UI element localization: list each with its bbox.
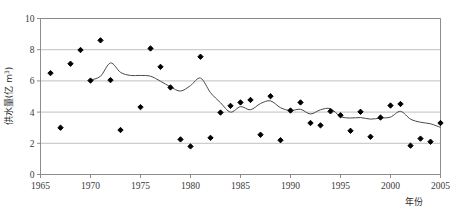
y-tick-label-2: 2 (30, 139, 35, 149)
y-axis-title-main: 供水量(亿 m (3, 74, 14, 125)
scatter-marker (278, 137, 283, 142)
x-tick-label-1965: 1965 (31, 181, 50, 191)
x-tick-label-1980: 1980 (181, 181, 200, 191)
scatter-marker (378, 115, 383, 120)
y-tick-label-4: 4 (30, 108, 35, 118)
x-tick-label-1995: 1995 (331, 181, 350, 191)
scatter-marker (308, 120, 313, 125)
scatter-marker (368, 134, 373, 139)
x-tick-label-2000: 2000 (381, 181, 400, 191)
scatter-marker (218, 110, 223, 115)
scatter-marker (158, 64, 163, 69)
y-axis-title-close: ) (4, 67, 14, 71)
y-tick-label-0: 0 (30, 170, 35, 180)
scatter-marker (418, 136, 423, 141)
cropped-text-remnant (0, 0, 464, 12)
y-tick-label-10: 10 (25, 14, 35, 24)
scatter-marker (108, 77, 113, 82)
x-axis-tick-group: 196519701975198019851990199520002005 (31, 175, 450, 191)
scatter-marker (238, 100, 243, 105)
scatter-marker (438, 120, 443, 125)
scatter-marker (348, 128, 353, 133)
svg-text:供水量(亿 m3): 供水量(亿 m3) (3, 67, 15, 125)
scatter-marker (398, 101, 403, 106)
scatter-marker (48, 70, 53, 75)
trendline-series (91, 63, 441, 127)
trendline-path (91, 63, 441, 127)
x-tick-label-1975: 1975 (131, 181, 150, 191)
scatter-marker (258, 132, 263, 137)
scatter-marker (68, 61, 73, 66)
y-axis-tick-group: 0246810 (25, 14, 41, 180)
y-tick-label-6: 6 (30, 76, 35, 86)
x-tick-label-1985: 1985 (231, 181, 250, 191)
x-axis-title: 年份 (405, 196, 423, 207)
scatter-marker (408, 143, 413, 148)
scatter-marker (188, 144, 193, 149)
scatter-marker (178, 137, 183, 142)
scatter-marker (98, 38, 103, 43)
scatter-marker (88, 78, 93, 83)
scatter-marker (138, 104, 143, 109)
scatter-series (48, 38, 443, 149)
scatter-marker (118, 127, 123, 132)
y-tick-label-8: 8 (30, 45, 35, 55)
scatter-marker (228, 103, 233, 108)
x-tick-label-1990: 1990 (281, 181, 300, 191)
supply-water-scatter-chart: 196519701975198019851990199520002005 024… (0, 0, 464, 212)
scatter-marker (198, 54, 203, 59)
scatter-marker (58, 125, 63, 130)
scatter-marker (298, 100, 303, 105)
scatter-marker (248, 97, 253, 102)
x-tick-label-1970: 1970 (81, 181, 100, 191)
scatter-marker (388, 103, 393, 108)
scatter-marker (78, 47, 83, 52)
scatter-marker (148, 46, 153, 51)
scatter-marker (208, 135, 213, 140)
scatter-marker (268, 93, 273, 98)
chart-figure: 196519701975198019851990199520002005 024… (0, 0, 464, 212)
y-axis-title: 供水量(亿 m3) (3, 67, 15, 125)
x-tick-label-2005: 2005 (431, 181, 450, 191)
scatter-marker (358, 109, 363, 114)
scatter-marker (318, 123, 323, 128)
